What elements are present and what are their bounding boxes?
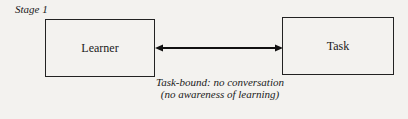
learner-label: Learner [81,41,118,56]
stage-label: Stage 1 [15,3,48,15]
caption-line-2: (no awareness of learning) [120,88,320,100]
task-label: Task [327,39,350,54]
caption-line-1: Task-bound: no conversation [120,76,320,88]
caption: Task-bound: no conversation (no awarenes… [120,76,320,100]
learner-box: Learner [45,19,155,77]
task-box: Task [282,17,394,75]
bidirectional-arrow-icon [155,43,283,53]
